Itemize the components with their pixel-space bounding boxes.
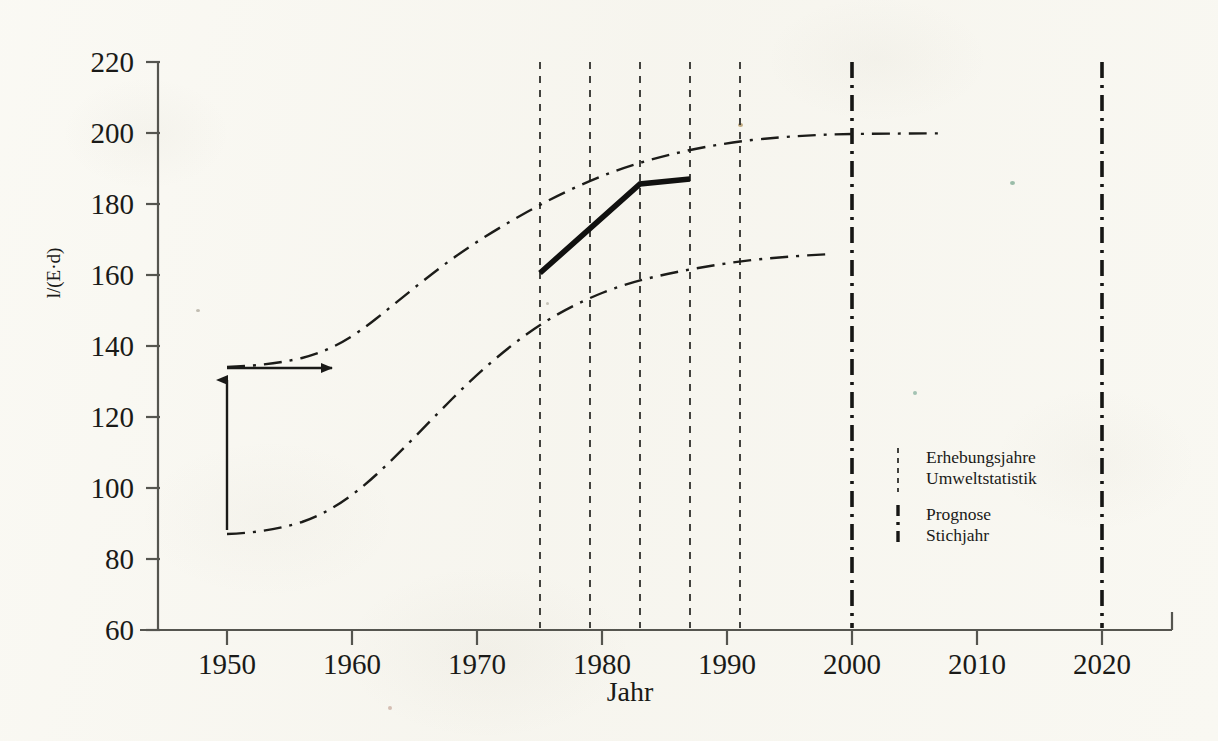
- chart-page: 220 200 180 160 140 120 100 80 60 1950 1…: [0, 0, 1218, 741]
- legend-label-line-1: Prognose: [926, 504, 991, 525]
- x-tick-label: 1960: [287, 648, 417, 681]
- x-tick-label: 2010: [912, 648, 1042, 681]
- survey-year-lines: [540, 62, 740, 628]
- y-tick-label: 140: [40, 330, 134, 363]
- range-annotation-arrow: [227, 368, 332, 530]
- chart-canvas: [0, 0, 1218, 741]
- x-tick-label: 2000: [787, 648, 917, 681]
- legend-entry-forecast-years: Prognose Stichjahr: [926, 504, 991, 546]
- legend-label-line-2: Stichjahr: [926, 525, 991, 546]
- legend-label-line-2: Umweltstatistik: [926, 468, 1037, 489]
- x-tick-label: 1970: [412, 648, 542, 681]
- legend-entry-survey-years: Erhebungsjahre Umweltstatistik: [926, 447, 1037, 489]
- y-tick-label: 80: [40, 543, 134, 576]
- y-tick-label: 60: [40, 614, 134, 647]
- upper-trend-curve: [227, 133, 944, 367]
- legend-label-line-1: Erhebungsjahre: [926, 447, 1037, 468]
- y-tick-label: 100: [40, 472, 134, 505]
- y-axis-title: l/(E·d): [43, 218, 65, 328]
- axis-lines: [140, 62, 1172, 630]
- x-tick-label: 2020: [1037, 648, 1167, 681]
- lower-trend-curve: [227, 254, 832, 534]
- x-tick-label: 1950: [162, 648, 292, 681]
- y-tick-label: 120: [40, 401, 134, 434]
- x-axis-title: Jahr: [560, 676, 700, 708]
- y-tick-label: 200: [40, 117, 134, 150]
- y-tick-label: 180: [40, 188, 134, 221]
- x-axis-ticks: [227, 630, 1102, 645]
- y-tick-label: 220: [40, 46, 134, 79]
